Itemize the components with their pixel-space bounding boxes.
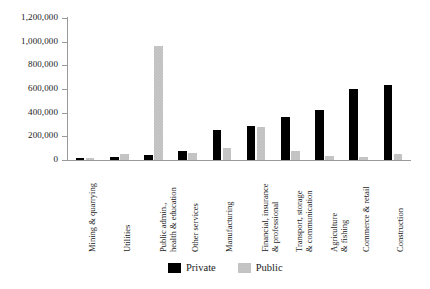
x-axis-label: Transport, storage& communication — [295, 190, 314, 252]
x-axis-label-line: & professional — [271, 184, 281, 252]
bar-public — [120, 154, 129, 161]
legend-item-public: Public — [238, 262, 283, 273]
plot-area — [68, 18, 410, 160]
bar-private — [384, 85, 393, 160]
x-axis-label: Public admin.,health & education — [159, 187, 178, 252]
x-axis-label: Mining & quarrying — [88, 183, 98, 252]
bar-private — [110, 157, 119, 160]
x-axis-label: Agriculture& fishing — [330, 213, 349, 252]
bar-group — [376, 18, 410, 160]
legend-label-private: Private — [186, 262, 216, 273]
y-axis-tick-label: 0 — [53, 155, 58, 164]
bar-private — [247, 126, 256, 160]
bar-private — [178, 151, 187, 160]
x-axis-label-line: & fishing — [339, 213, 349, 252]
x-axis-label-line: health & education — [168, 187, 178, 252]
bar-group — [205, 18, 239, 160]
bar-public — [154, 46, 163, 160]
x-axis-label-line: Utilities — [123, 225, 133, 252]
bar-public — [86, 158, 95, 160]
x-axis-label: Financial, insurance& professional — [261, 184, 280, 252]
bar-group — [171, 18, 205, 160]
gray-square-swatch — [238, 263, 251, 273]
bar-private — [315, 110, 324, 160]
y-axis-tick-label: 600,000 — [28, 84, 58, 93]
bar-public — [223, 148, 232, 160]
legend-label-public: Public — [256, 262, 283, 273]
bar-group — [68, 18, 102, 160]
bar-private — [281, 117, 290, 160]
bar-group — [342, 18, 376, 160]
bar-group — [239, 18, 273, 160]
black-square-swatch — [168, 263, 181, 273]
y-axis-tick-label: 400,000 — [28, 108, 58, 117]
bar-chart: 0200,000400,000600,000800,0001,000,0001,… — [0, 0, 430, 289]
x-axis-label: Construction — [396, 208, 406, 252]
bar-group — [273, 18, 307, 160]
bar-group — [136, 18, 170, 160]
x-axis-label-line: Agriculture — [330, 213, 340, 252]
y-axis-tick-label: 800,000 — [28, 60, 58, 69]
bar-private — [349, 89, 358, 160]
bar-group — [102, 18, 136, 160]
y-axis-tick-label: 1,200,000 — [21, 13, 58, 22]
bar-public — [325, 156, 334, 160]
bar-public — [359, 157, 368, 160]
y-axis-tick-label: 1,000,000 — [21, 37, 58, 46]
bar-public — [188, 153, 197, 160]
x-axis-label-line: Mining & quarrying — [88, 183, 98, 252]
legend: Private Public — [168, 262, 283, 273]
x-axis-label-line: Commerce & retail — [362, 186, 372, 252]
y-axis-tick-label: 200,000 — [28, 131, 58, 140]
bar-private — [144, 155, 153, 160]
bar-public — [394, 154, 403, 160]
bar-group — [307, 18, 341, 160]
x-axis-label-line: Other services — [191, 203, 201, 252]
x-axis-line — [67, 160, 411, 161]
x-axis-label-line: Public admin., — [159, 187, 169, 252]
x-axis-label: Other services — [191, 203, 201, 252]
bar-public — [257, 127, 266, 160]
x-axis-label: Commerce & retail — [362, 186, 372, 252]
x-axis-label: Manufacturing — [225, 201, 235, 252]
x-axis-label-line: Construction — [396, 208, 406, 252]
x-axis-label-line: Manufacturing — [225, 201, 235, 252]
legend-item-private: Private — [168, 262, 216, 273]
bar-private — [213, 130, 222, 160]
x-axis-label: Utilities — [123, 225, 133, 252]
bar-public — [291, 151, 300, 160]
x-axis-label-line: & communication — [305, 190, 315, 252]
bar-private — [76, 158, 85, 160]
